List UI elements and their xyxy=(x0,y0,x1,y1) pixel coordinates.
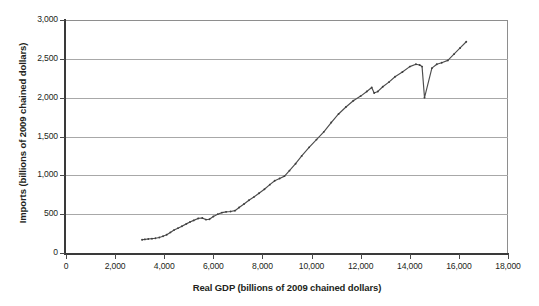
y-tick-label-2500: 2,500 xyxy=(14,53,58,63)
x-tick-mark-8000 xyxy=(262,254,263,259)
data-point xyxy=(212,216,214,218)
data-point xyxy=(279,177,281,179)
data-point xyxy=(201,217,203,219)
data-point xyxy=(181,225,183,227)
data-point xyxy=(401,71,403,73)
series-line xyxy=(142,42,466,240)
x-tick-mark-12000 xyxy=(361,254,362,259)
data-point xyxy=(147,238,149,240)
data-point xyxy=(177,227,179,229)
data-point xyxy=(238,207,240,209)
y-tick-label-0: 0 xyxy=(14,247,58,257)
y-tick-mark-0 xyxy=(60,253,65,254)
data-point xyxy=(345,106,347,108)
y-tick-label-1000: 1,000 xyxy=(14,169,58,179)
x-tick-mark-16000 xyxy=(459,254,460,259)
data-point xyxy=(230,211,232,213)
data-point xyxy=(193,219,195,221)
data-point xyxy=(225,211,227,213)
x-tick-mark-14000 xyxy=(410,254,411,259)
y-tick-mark-1000 xyxy=(60,175,65,176)
x-tick-mark-10000 xyxy=(312,254,313,259)
imports-vs-real-gdp-chart: Imports (billions of 2009 chained dollar… xyxy=(0,0,539,306)
data-point xyxy=(419,64,421,66)
data-point xyxy=(371,87,373,89)
data-point xyxy=(377,91,379,93)
data-point xyxy=(338,113,340,115)
data-point xyxy=(173,229,175,231)
data-point xyxy=(316,139,318,141)
y-tick-label-2000: 2,000 xyxy=(14,92,58,102)
data-point xyxy=(323,131,325,133)
data-point xyxy=(269,184,271,186)
data-point xyxy=(360,95,362,97)
data-point xyxy=(424,97,426,99)
data-point xyxy=(166,234,168,236)
y-tick-mark-2000 xyxy=(60,98,65,99)
data-point xyxy=(154,237,156,239)
x-tick-mark-6000 xyxy=(213,254,214,259)
data-point xyxy=(465,41,467,43)
data-point xyxy=(217,213,219,215)
data-point xyxy=(388,81,390,83)
data-point xyxy=(415,63,417,65)
x-axis-line xyxy=(64,253,509,255)
series-markers xyxy=(141,41,467,241)
data-point xyxy=(263,188,265,190)
data-point xyxy=(248,199,250,201)
data-point xyxy=(373,92,375,94)
data-point xyxy=(208,218,210,220)
y-tick-mark-1500 xyxy=(60,137,65,138)
y-tick-label-1500: 1,500 xyxy=(14,131,58,141)
y-tick-label-500: 500 xyxy=(14,208,58,218)
data-point xyxy=(158,237,160,239)
data-point xyxy=(253,196,255,198)
data-point xyxy=(421,66,423,68)
data-series-layer xyxy=(66,20,508,253)
data-point xyxy=(409,66,411,68)
x-tick-mark-4000 xyxy=(164,254,165,259)
data-point xyxy=(308,146,310,148)
data-point xyxy=(141,239,143,241)
data-point xyxy=(221,212,223,214)
data-point xyxy=(169,231,171,233)
data-point xyxy=(197,217,199,219)
data-point xyxy=(205,219,207,221)
x-axis-title: Real GDP (billions of 2009 chained dolla… xyxy=(66,282,508,293)
data-point xyxy=(330,122,332,124)
data-point xyxy=(394,76,396,78)
y-tick-label-3000: 3,000 xyxy=(14,14,58,24)
data-point xyxy=(243,203,245,205)
x-tick-label-18000: 18,000 xyxy=(478,261,538,271)
data-point xyxy=(453,53,455,55)
x-tick-mark-18000 xyxy=(508,254,509,259)
data-point xyxy=(459,47,461,49)
data-point xyxy=(301,155,303,157)
y-tick-mark-3000 xyxy=(60,20,65,21)
data-point xyxy=(189,221,191,223)
data-point xyxy=(382,86,384,88)
data-point xyxy=(289,170,291,172)
data-point xyxy=(258,192,260,194)
data-point xyxy=(366,91,368,93)
data-point xyxy=(185,223,187,225)
data-point xyxy=(441,62,443,64)
data-point xyxy=(447,59,449,61)
y-tick-mark-2500 xyxy=(60,59,65,60)
data-point xyxy=(352,100,354,102)
data-point xyxy=(274,180,276,182)
data-point xyxy=(284,175,286,177)
data-point xyxy=(162,235,164,237)
data-point xyxy=(436,63,438,65)
x-tick-mark-0 xyxy=(66,254,67,259)
data-point xyxy=(234,210,236,212)
data-point xyxy=(144,238,146,240)
data-point xyxy=(295,163,297,165)
data-point xyxy=(151,238,153,240)
y-tick-mark-500 xyxy=(60,214,65,215)
x-tick-mark-2000 xyxy=(115,254,116,259)
data-point xyxy=(431,67,433,69)
